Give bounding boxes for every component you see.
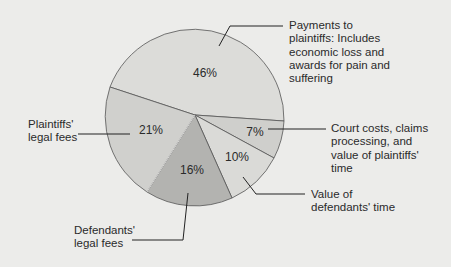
pct-payments: 46% <box>193 66 217 80</box>
label-court-costs: Court costs, claims processing, and valu… <box>331 122 428 175</box>
pie-chart: 46% 7% 10% 16% 21% Payments to plaintiff… <box>0 0 451 267</box>
pct-plaintiffs-fees: 21% <box>139 123 163 137</box>
label-defendants-fees: Defendants' legal fees <box>74 224 135 251</box>
label-defendants-time: Value of defendants' time <box>311 188 395 215</box>
label-payments: Payments to plaintiffs: Includes economi… <box>289 19 390 85</box>
pct-court-costs: 7% <box>246 125 263 139</box>
label-plaintiffs-fees: Plaintiffs' legal fees <box>28 118 77 145</box>
pct-defendants-time: 10% <box>225 150 249 164</box>
pct-defendants-fees: 16% <box>180 163 204 177</box>
